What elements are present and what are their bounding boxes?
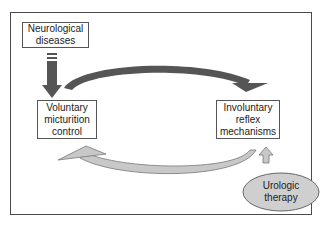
node-label-line: control — [38, 126, 96, 138]
node-label-line: Involuntary — [217, 102, 279, 114]
node-label-line: Voluntary — [38, 102, 96, 114]
curved-arrow-top-icon — [64, 66, 268, 92]
node-involuntary-reflex-mechanisms: Involuntary reflex mechanisms — [216, 100, 280, 139]
node-label-line: therapy — [243, 192, 319, 204]
node-neurological-diseases: Neurological diseases — [22, 22, 89, 48]
node-label-line: micturition — [38, 114, 96, 126]
node-voluntary-micturition-control: Voluntary micturition control — [37, 100, 97, 139]
down-arrow-icon — [42, 53, 62, 98]
node-label-line: Urologic — [243, 180, 319, 192]
up-arrow-icon — [259, 147, 273, 163]
node-urologic-therapy: Urologic therapy — [243, 173, 319, 211]
node-label-line: diseases — [23, 35, 88, 47]
node-label-line: reflex — [217, 114, 279, 126]
curved-arrow-bottom-icon — [58, 146, 256, 174]
node-label-line: Neurological — [23, 23, 88, 35]
node-label-line: mechanisms — [217, 126, 279, 138]
